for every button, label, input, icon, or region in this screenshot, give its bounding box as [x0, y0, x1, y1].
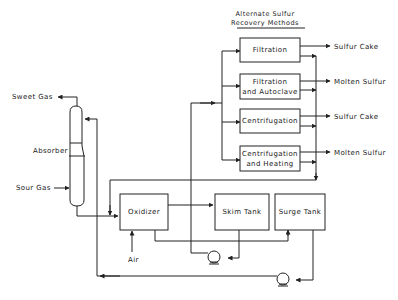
method-label: Filtration — [253, 46, 288, 54]
header-line-2: Recovery Methods — [231, 19, 299, 27]
method-label-2: and Autoclave — [242, 88, 297, 96]
method-centrifugation: Centrifugation — [240, 109, 300, 133]
skim-tank-unit: Skim Tank — [215, 194, 269, 230]
skim-tank-label: Skim Tank — [223, 208, 263, 216]
method-label: Filtration — [253, 78, 288, 86]
sweet-gas-label: Sweet Gas — [12, 93, 53, 101]
air-label: Air — [128, 256, 139, 264]
method-filtration-autoclave: Filtration and Autoclave — [240, 74, 300, 99]
header-line-1: Alternate Sulfur — [235, 10, 294, 18]
output-molten-sulfur-1: Molten Sulfur — [334, 78, 386, 86]
method-centrifugation-heating: Centrifugation and Heating — [240, 146, 300, 171]
surge-tank-unit: Surge Tank — [275, 194, 325, 230]
process-flow-diagram: Alternate Sulfur Recovery Methods Filtra… — [0, 0, 398, 300]
method-label-2: and Heating — [246, 160, 293, 168]
oxidizer-unit: Oxidizer — [120, 194, 168, 230]
output-molten-sulfur-2: Molten Sulfur — [334, 149, 386, 157]
pump-2-icon — [277, 273, 289, 286]
output-sulfur-cake-1: Sulfur Cake — [334, 43, 379, 51]
method-filtration: Filtration — [240, 38, 300, 62]
oxidizer-label: Oxidizer — [128, 208, 160, 216]
sour-gas-label: Sour Gas — [16, 184, 51, 192]
pump-1-icon — [208, 251, 220, 264]
method-label: Centrifugation — [242, 117, 298, 125]
surge-tank-label: Surge Tank — [279, 208, 322, 216]
output-sulfur-cake-2: Sulfur Cake — [334, 113, 379, 121]
absorber-label: Absorber — [33, 147, 68, 155]
method-label: Centrifugation — [242, 150, 298, 158]
recovery-methods-header: Alternate Sulfur Recovery Methods — [231, 10, 305, 28]
